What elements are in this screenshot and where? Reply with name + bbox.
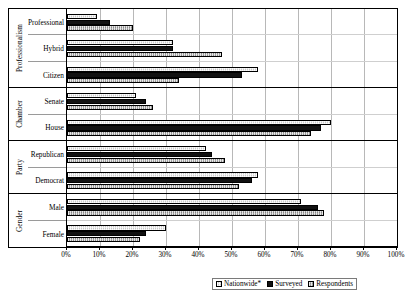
legend-item: Surveyed: [267, 280, 302, 288]
category-label: Citizen: [43, 70, 64, 79]
x-axis-tick: [330, 247, 331, 250]
bar: [67, 152, 212, 157]
category-label: Male: [49, 202, 64, 211]
chart-legend: Nationwide*SurveyedRespondents: [212, 278, 357, 290]
category-tick-senate: Senate: [28, 88, 66, 114]
category-label: Professional: [28, 17, 64, 26]
group-label-cell: Professionalism: [9, 9, 29, 88]
legend-swatch-icon: [267, 281, 273, 287]
bar: [67, 25, 133, 30]
bar: [67, 231, 146, 236]
bar: [67, 146, 206, 151]
legend-swatch-icon: [216, 281, 222, 287]
bar-group: [67, 35, 397, 61]
bar-group: [67, 62, 397, 88]
bar: [67, 46, 173, 51]
bar: [67, 20, 110, 25]
category-tick-democrat: Democrat: [28, 168, 66, 194]
bar: [67, 199, 301, 204]
legend-label: Respondents: [316, 280, 353, 288]
bar-chart: ProfessionalismChamberPartyGender Profes…: [0, 0, 410, 297]
bar: [67, 178, 252, 183]
group-label: Chamber: [15, 101, 24, 128]
bar-group: [67, 115, 397, 141]
x-axis-tick-label: 10%: [92, 251, 105, 259]
x-axis-tick-label: 40%: [191, 251, 204, 259]
bar: [67, 125, 321, 130]
category-label: House: [45, 123, 64, 132]
x-axis-tick: [198, 247, 199, 250]
category-tick-hybrid: Hybrid: [28, 35, 66, 61]
x-axis-tick: [264, 247, 265, 250]
legend-item: Respondents: [308, 280, 353, 288]
x-axis-tick: [132, 247, 133, 250]
legend-label: Surveyed: [275, 280, 302, 288]
group-label: Gender: [15, 209, 24, 231]
category-tick-female: Female: [28, 221, 66, 247]
category-label: Republican: [31, 149, 64, 158]
bar: [67, 14, 97, 19]
bar: [67, 67, 258, 72]
legend-item: Nationwide*: [216, 280, 261, 288]
bar: [67, 99, 146, 104]
bar-group: [67, 221, 397, 247]
x-axis: 0%10%20%30%40%50%60%70%80%90%100%: [66, 247, 397, 261]
x-axis-tick: [66, 247, 67, 250]
x-axis-tick: [396, 247, 397, 250]
x-axis-tick-label: 60%: [257, 251, 270, 259]
group-label-cell: Chamber: [9, 88, 29, 141]
category-tick-professional: Professional: [28, 9, 66, 35]
bar: [67, 131, 311, 136]
bar: [67, 120, 331, 125]
bar: [67, 184, 239, 189]
bar: [67, 72, 242, 77]
category-label: Senate: [45, 97, 64, 106]
bar: [67, 40, 173, 45]
category-axis-column: ProfessionalHybridCitizenSenateHouseRepu…: [28, 8, 66, 248]
category-label: Democrat: [35, 176, 64, 185]
bar-group: [67, 141, 397, 167]
category-tick-citizen: Citizen: [28, 62, 66, 88]
category-label: Hybrid: [43, 44, 64, 53]
x-axis-tick: [231, 247, 232, 250]
bar: [67, 52, 222, 57]
x-axis-tick-label: 0%: [61, 251, 71, 259]
bar-group: [67, 88, 397, 114]
category-tick-house: House: [28, 115, 66, 141]
bar: [67, 225, 166, 230]
plot-area: [66, 8, 398, 248]
category-tick-male: Male: [28, 194, 66, 220]
group-label-cell: Party: [9, 141, 29, 194]
bar-rows: [67, 9, 397, 247]
legend-label: Nationwide*: [224, 280, 261, 288]
x-axis-tick-label: 80%: [323, 251, 336, 259]
x-axis-tick: [363, 247, 364, 250]
group-axis-column: ProfessionalismChamberPartyGender: [8, 8, 29, 248]
x-axis-tick-label: 90%: [356, 251, 369, 259]
x-axis-tick-label: 100%: [388, 251, 405, 259]
bar: [67, 158, 225, 163]
group-label-cell: Gender: [9, 194, 29, 247]
bar: [67, 105, 153, 110]
bar: [67, 205, 318, 210]
bar-group: [67, 168, 397, 194]
category-axis: ProfessionalismChamberPartyGender Profes…: [8, 8, 66, 246]
x-axis-tick-label: 70%: [290, 251, 303, 259]
x-axis-tick: [165, 247, 166, 250]
x-axis-tick-label: 20%: [125, 251, 138, 259]
x-axis-tick-label: 50%: [224, 251, 237, 259]
bar: [67, 172, 258, 177]
bar: [67, 93, 136, 98]
bar: [67, 237, 140, 242]
category-label: Female: [43, 229, 64, 238]
x-axis-tick-label: 30%: [158, 251, 171, 259]
x-axis-tick: [297, 247, 298, 250]
bar: [67, 78, 179, 83]
bar-group: [67, 194, 397, 220]
bar: [67, 210, 324, 215]
x-axis-tick: [99, 247, 100, 250]
legend-swatch-icon: [308, 281, 314, 287]
bar-group: [67, 9, 397, 35]
group-label: Party: [15, 159, 24, 175]
group-label: Professionalism: [15, 24, 24, 72]
